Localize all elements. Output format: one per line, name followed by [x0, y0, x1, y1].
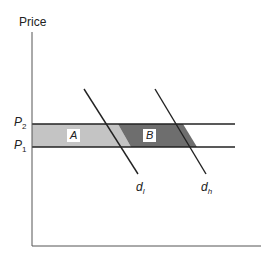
curve-label-dh: dh [201, 181, 212, 196]
curve-symbol: d [136, 180, 143, 194]
curve-label-dl: dl [136, 181, 144, 196]
price-label-p1: P1 [14, 139, 26, 154]
area-b [118, 124, 197, 147]
price-symbol: P [14, 115, 22, 129]
curve-symbol: d [201, 180, 208, 194]
price-subscript: 1 [22, 145, 26, 154]
diagram-canvas [0, 0, 261, 261]
area-a-label: A [67, 129, 80, 142]
price-subscript: 2 [22, 122, 26, 131]
area-a [32, 124, 131, 147]
area-b-label: B [143, 129, 156, 142]
curve-subscript: h [208, 187, 212, 196]
y-axis-label: Price [19, 16, 46, 28]
curve-subscript: l [143, 187, 145, 196]
price-label-p2: P2 [14, 116, 26, 131]
price-symbol: P [14, 138, 22, 152]
